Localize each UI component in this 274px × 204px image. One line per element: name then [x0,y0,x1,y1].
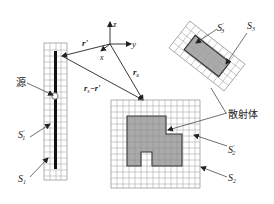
grid-s3 [169,21,245,91]
scatterer-label: 散射体 [228,108,258,120]
s3p-leader [196,29,217,43]
scatterer-leader-2 [211,88,226,113]
r-diff-label: rs−r' [84,83,101,94]
diagram-canvas: z y x r' rs rs−r' [0,0,274,204]
x-axis-label: x [99,53,104,62]
z-axis-label: z [112,19,117,29]
r-s-label: rs [133,67,140,78]
vector-r-diff [62,56,143,100]
s2-prime-label: S'2 [228,144,235,156]
source-point [52,93,58,99]
s1p-leader [30,124,50,137]
source-leader [27,83,53,95]
y-axis-label: y [131,39,136,49]
grid-s1 [44,43,67,180]
source-label: 源 [16,76,26,88]
r-prime-label: r' [82,38,89,48]
source-bar [54,51,57,169]
grid-s2 [111,100,200,188]
s1-prime-label: S'1 [18,129,25,141]
s1-label: S1 [18,173,26,185]
s2-label: S2 [228,172,236,184]
s3-label: S3 [247,20,255,32]
s1-leader [30,158,48,177]
s3-leader [226,33,247,64]
s3-prime-label: S'3 [217,22,224,34]
scatterer-2 [127,116,182,166]
s2-leader [201,167,227,177]
s2p-leader [194,135,227,146]
